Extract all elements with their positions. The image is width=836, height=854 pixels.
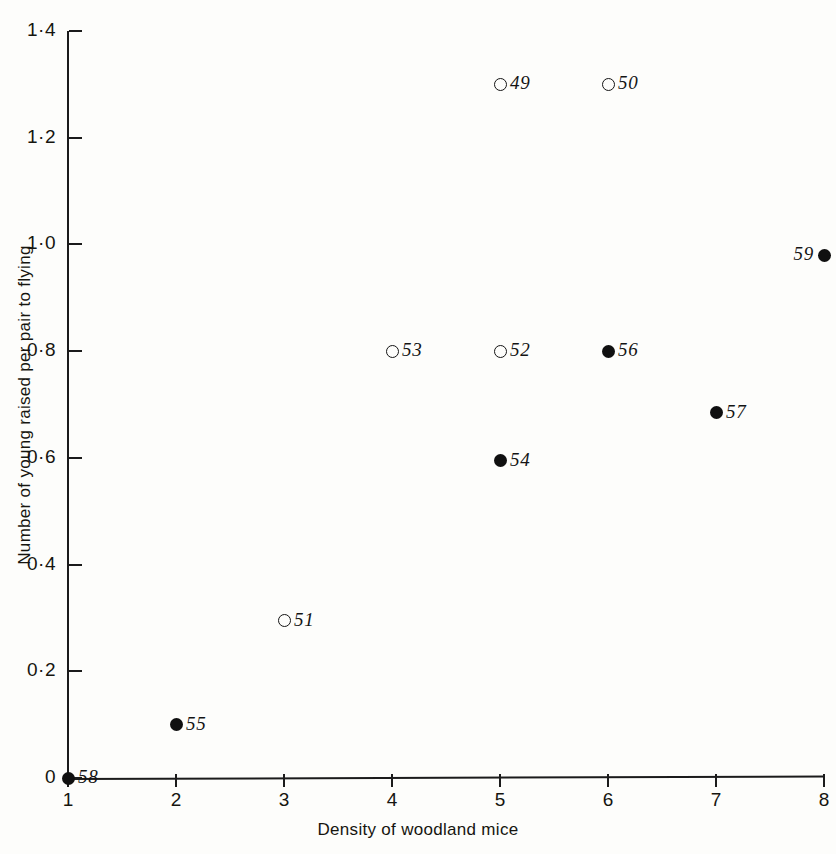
open-circle-marker-icon bbox=[602, 78, 615, 91]
y-tick-label: 1·4 bbox=[10, 19, 56, 41]
y-axis-title: Number of young raised per pair to flyin… bbox=[15, 95, 35, 715]
y-tick-mark bbox=[69, 670, 82, 672]
x-tick-label: 4 bbox=[377, 789, 407, 811]
y-tick-mark bbox=[69, 243, 82, 245]
x-tick-mark bbox=[823, 774, 825, 787]
x-tick-label: 1 bbox=[53, 789, 83, 811]
y-axis-line bbox=[67, 31, 69, 779]
data-point-label: 58 bbox=[78, 766, 99, 788]
x-tick-label: 8 bbox=[809, 789, 836, 811]
data-point-label: 56 bbox=[618, 339, 639, 361]
scatter-plot-figure: BARN OWLS AND OTHER PREDATORS 00·20·40·6… bbox=[0, 0, 836, 854]
filled-circle-marker-icon bbox=[494, 454, 507, 467]
data-point-label: 50 bbox=[618, 72, 639, 94]
y-tick-mark bbox=[69, 457, 82, 459]
y-tick-mark bbox=[69, 30, 82, 32]
x-tick-label: 6 bbox=[593, 789, 623, 811]
filled-circle-marker-icon bbox=[818, 249, 831, 262]
x-tick-mark bbox=[283, 774, 285, 787]
x-tick-label: 2 bbox=[161, 789, 191, 811]
data-point-label: 55 bbox=[186, 713, 207, 735]
data-point-label: 59 bbox=[793, 243, 814, 265]
x-axis-title: Density of woodland mice bbox=[0, 820, 836, 840]
open-circle-marker-icon bbox=[386, 345, 399, 358]
x-tick-mark bbox=[715, 774, 717, 787]
data-point-label: 52 bbox=[510, 339, 531, 361]
y-tick-mark bbox=[69, 350, 82, 352]
x-tick-mark bbox=[391, 774, 393, 787]
open-circle-marker-icon bbox=[494, 78, 507, 91]
x-tick-mark bbox=[607, 774, 609, 787]
y-tick-mark bbox=[69, 564, 82, 566]
x-tick-label: 5 bbox=[485, 789, 515, 811]
y-tick-label: 0 bbox=[10, 766, 56, 788]
x-tick-mark bbox=[175, 774, 177, 787]
x-tick-mark bbox=[499, 774, 501, 787]
filled-circle-marker-icon bbox=[602, 345, 615, 358]
data-point-label: 51 bbox=[294, 609, 315, 631]
data-point-label: 57 bbox=[726, 401, 747, 423]
data-point-label: 49 bbox=[510, 72, 531, 94]
open-circle-marker-icon bbox=[278, 614, 291, 627]
y-tick-mark bbox=[69, 137, 82, 139]
open-circle-marker-icon bbox=[494, 345, 507, 358]
filled-circle-marker-icon bbox=[710, 406, 723, 419]
filled-circle-marker-icon bbox=[170, 718, 183, 731]
x-tick-label: 7 bbox=[701, 789, 731, 811]
x-axis-line bbox=[67, 776, 825, 780]
filled-circle-marker-icon bbox=[62, 772, 75, 785]
data-point-label: 54 bbox=[510, 449, 531, 471]
x-tick-label: 3 bbox=[269, 789, 299, 811]
data-point-label: 53 bbox=[402, 339, 423, 361]
